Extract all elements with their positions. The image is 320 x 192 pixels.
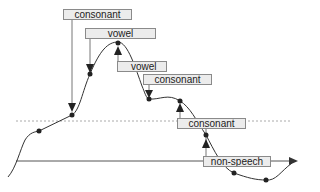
contour-point [264, 178, 269, 183]
contour-point [147, 97, 152, 102]
arrow-down-icon [68, 103, 76, 112]
contour-point [232, 171, 237, 176]
label-vowel-2: vowel [117, 61, 167, 72]
arrow-up-icon [114, 46, 122, 55]
label-non-speech: non-speech [203, 156, 271, 167]
label-consonant-2: consonant [143, 74, 212, 85]
contour-point [88, 72, 93, 77]
contour-point [204, 133, 209, 138]
arrow-up-icon [176, 103, 184, 112]
contour-point [116, 41, 121, 46]
contour-point [37, 129, 42, 134]
label-vowel-1: vowel [85, 28, 156, 39]
contour-point [178, 99, 183, 104]
label-consonant-3: consonant [177, 118, 246, 129]
label-consonant-1: consonant [63, 9, 132, 20]
contour-point [70, 113, 75, 118]
